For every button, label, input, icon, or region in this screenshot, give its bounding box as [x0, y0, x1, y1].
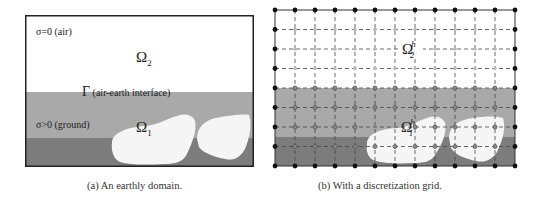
caption-b: (b) With a discretization grid. [318, 180, 442, 191]
omega2-label: Ω2 [136, 49, 152, 66]
discretization-grid-figure: Ωh2 Ωh1 [270, 5, 522, 173]
omega1h-label: Ωh1 [401, 119, 421, 136]
ground-label: σ>0 (ground) [36, 119, 90, 130]
omega1-label: Ω1 [136, 119, 152, 136]
earthly-domain-figure: σ=0 (air) Ω2 Γ (air-earth interface) σ>0… [25, 15, 254, 167]
omega2h-label: Ωh2 [401, 41, 423, 58]
air-label: σ=0 (air) [36, 26, 72, 37]
interface-label: Γ (air-earth interface) [82, 84, 170, 100]
caption-a: (a) An earthly domain. [87, 180, 182, 191]
discretization-grid-diagram [270, 5, 522, 173]
